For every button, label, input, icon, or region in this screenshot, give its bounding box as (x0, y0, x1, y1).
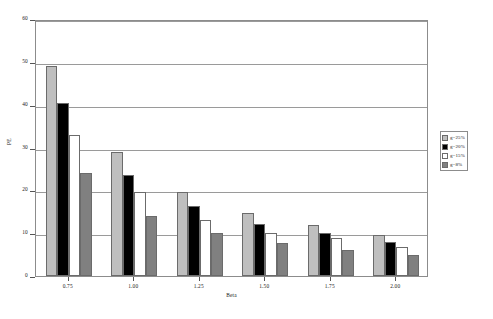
bar (188, 206, 199, 276)
y-axis-tick: 10 (0, 234, 35, 235)
plot-area (35, 20, 428, 277)
legend-swatch (442, 153, 448, 159)
bar-group (36, 21, 102, 276)
x-axis-title: Beta (35, 292, 428, 298)
x-tick-mark (133, 277, 134, 281)
x-tick-label: 1.25 (166, 283, 232, 290)
bar-group (102, 21, 168, 276)
bar (331, 238, 342, 276)
bar (200, 220, 211, 276)
bar (123, 175, 134, 276)
y-axis-tick: 40 (0, 106, 35, 107)
bar-group (364, 21, 430, 276)
legend-label: g=15% (450, 153, 465, 159)
x-tick-label: 1.50 (232, 283, 298, 290)
x-tick-mark (395, 277, 396, 281)
x-tick-label: 2.00 (363, 283, 429, 290)
y-axis-tick: 20 (0, 191, 35, 192)
y-axis-tick: 60 (0, 20, 35, 21)
y-tick-label: 30 (22, 144, 28, 150)
legend-swatch (442, 135, 448, 141)
y-tick-label: 60 (22, 15, 28, 21)
chart-legend: g=25%g=20%g=15%g=8% (440, 131, 468, 171)
x-tick-label: 1.75 (297, 283, 363, 290)
x-tick-mark (199, 277, 200, 281)
legend-label: g=25% (450, 135, 465, 141)
bar (254, 224, 265, 276)
bar-group (233, 21, 299, 276)
bar (80, 173, 91, 276)
x-tick-mark (330, 277, 331, 281)
bar (134, 192, 145, 276)
bar-group (298, 21, 364, 276)
y-tick-label: 20 (22, 186, 28, 192)
bar-group (167, 21, 233, 276)
bar (396, 247, 407, 276)
y-axis-title: PE (6, 138, 12, 145)
bar (342, 250, 353, 276)
legend-item: g=8% (442, 160, 465, 169)
y-axis-tick: 30 (0, 149, 35, 150)
legend-item: g=25% (442, 133, 465, 142)
legend-swatch (442, 162, 448, 168)
legend-item: g=15% (442, 151, 465, 160)
bar (319, 233, 330, 276)
x-tick-label: 1.00 (101, 283, 167, 290)
x-tick-mark (264, 277, 265, 281)
legend-item: g=20% (442, 142, 465, 151)
bar (385, 242, 396, 276)
bar (242, 213, 253, 276)
bar (211, 233, 222, 276)
y-axis-tick: 0 (0, 277, 35, 278)
bar (308, 225, 319, 276)
legend-label: g=8% (450, 162, 462, 168)
bar (146, 216, 157, 276)
bar (265, 233, 276, 276)
y-tick-label: 50 (22, 58, 28, 64)
bar (69, 135, 80, 276)
bar (277, 243, 288, 276)
bar (373, 235, 384, 276)
y-tick-label: 0 (25, 272, 28, 278)
bar (111, 152, 122, 276)
legend-label: g=20% (450, 144, 465, 150)
bar (46, 66, 57, 276)
y-tick-label: 40 (22, 101, 28, 107)
bar (177, 192, 188, 276)
legend-swatch (442, 144, 448, 150)
x-tick-mark (68, 277, 69, 281)
bar (408, 255, 419, 276)
y-tick-label: 10 (22, 229, 28, 235)
x-tick-label: 0.75 (35, 283, 101, 290)
bar (57, 103, 68, 276)
bar-chart: 0102030405060 PE 0.751.001.251.501.752.0… (0, 0, 493, 319)
y-axis-tick: 50 (0, 63, 35, 64)
